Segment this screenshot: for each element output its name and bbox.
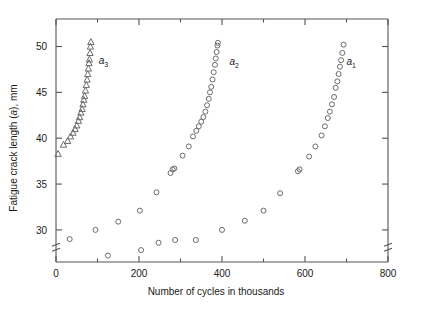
y-axis-title: Fatigue crack length (a), mm bbox=[8, 84, 19, 211]
fatigue-crack-growth-chart: 0200400600800 3035404550 a1a2a3 Number o… bbox=[0, 0, 423, 309]
x-tick-label: 600 bbox=[297, 268, 314, 279]
y-tick-label: 35 bbox=[36, 179, 48, 190]
y-tick-label: 30 bbox=[36, 225, 48, 236]
y-axis-title-prefix: Fatigue crack length ( bbox=[8, 115, 19, 212]
x-tick-label: 0 bbox=[53, 268, 59, 279]
y-axis-title-suffix: ), mm bbox=[8, 84, 19, 110]
x-tick-label: 800 bbox=[380, 268, 397, 279]
y-tick-label: 45 bbox=[36, 87, 48, 98]
y-tick-label: 50 bbox=[36, 41, 48, 52]
y-tick-label: 40 bbox=[36, 133, 48, 144]
x-axis-title: Number of cycles in thousands bbox=[148, 286, 285, 297]
chart-background bbox=[0, 0, 423, 309]
x-tick-label: 200 bbox=[131, 268, 148, 279]
x-tick-label: 400 bbox=[214, 268, 231, 279]
